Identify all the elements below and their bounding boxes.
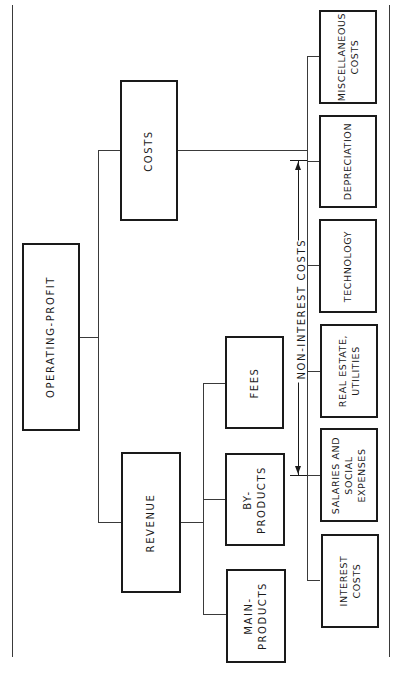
- fees-node: FEES: [225, 336, 284, 429]
- salaries-label: SALARIES AND SOCIAL EXPENSES: [330, 436, 369, 513]
- fees-connector: [203, 383, 225, 384]
- by-products-connector: [203, 499, 225, 500]
- interest-connector: [307, 580, 320, 581]
- revenue-label: REVENUE: [144, 493, 158, 552]
- operating-profit-node: OPERATING-PROFIT: [22, 243, 80, 431]
- technology-node: TECHNOLOGY: [319, 219, 377, 313]
- interest-costs-label: INTEREST COSTS: [337, 556, 363, 607]
- arrow-down-icon: [295, 466, 301, 474]
- costs-spine: [307, 56, 308, 581]
- operating-profit-label: OPERATING-PROFIT: [44, 276, 58, 398]
- by-products-label: BY- PRODUCTS: [241, 465, 269, 533]
- main-products-label: MAIN- PRODUCTS: [242, 582, 270, 650]
- frame-left-line: [12, 5, 13, 657]
- root-connector: [80, 337, 98, 338]
- main-products-node: MAIN- PRODUCTS: [226, 569, 286, 663]
- technology-label: TECHNOLOGY: [342, 230, 355, 301]
- salaries-connector: [307, 475, 320, 476]
- non-interest-bottom-tick: [290, 475, 307, 476]
- revenue-node: REVENUE: [121, 452, 181, 593]
- salaries-node: SALARIES AND SOCIAL EXPENSES: [320, 428, 378, 522]
- level1-spine: [98, 150, 99, 523]
- main-products-connector: [203, 614, 226, 615]
- costs-label: COSTS: [142, 130, 156, 172]
- by-products-node: BY- PRODUCTS: [225, 453, 285, 546]
- revenue-connector: [98, 522, 121, 523]
- costs-node: COSTS: [120, 80, 178, 221]
- frame-right-line: [389, 5, 390, 657]
- misc-costs-label: MISCELLANEOUS COSTS: [335, 13, 361, 101]
- fees-label: FEES: [247, 367, 261, 398]
- revenue-out-connector: [181, 522, 203, 523]
- depreciation-label: DEPRECIATION: [342, 123, 355, 200]
- misc-costs-node: MISCELLANEOUS COSTS: [319, 10, 377, 104]
- costs-out-connector: [178, 150, 307, 151]
- real-estate-node: REAL ESTATE, UTILITIES: [320, 324, 378, 418]
- interest-costs-node: INTEREST COSTS: [321, 534, 379, 628]
- costs-connector: [98, 150, 120, 151]
- depreciation-node: DEPRECIATION: [319, 115, 377, 208]
- non-interest-costs-label: NON-INTEREST COSTS: [296, 241, 307, 383]
- real-estate-connector: [307, 371, 320, 372]
- real-estate-label: REAL ESTATE, UTILITIES: [336, 335, 362, 407]
- arrow-up-icon: [295, 162, 301, 170]
